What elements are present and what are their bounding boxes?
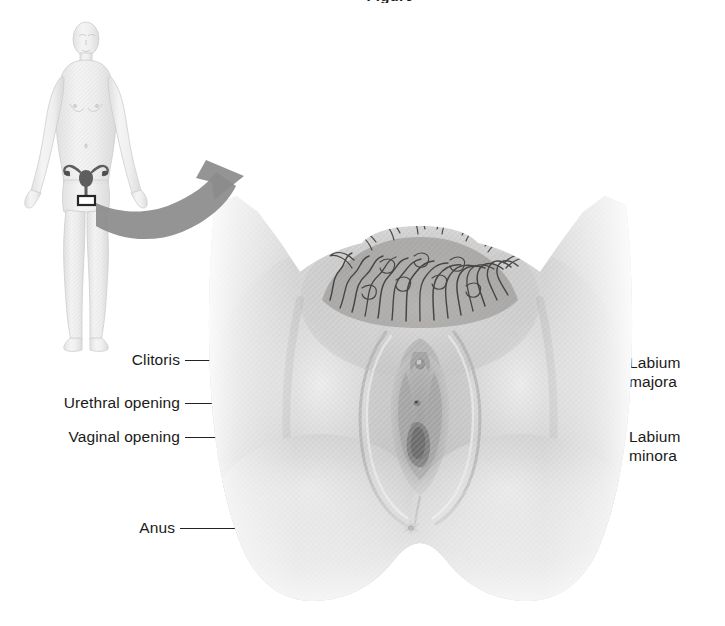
vulva-illustration (200, 190, 640, 620)
figure-canvas: Figure (0, 0, 725, 626)
body-figure (25, 22, 147, 351)
illustration-artwork (0, 0, 725, 626)
genital-region-marker (78, 196, 95, 205)
